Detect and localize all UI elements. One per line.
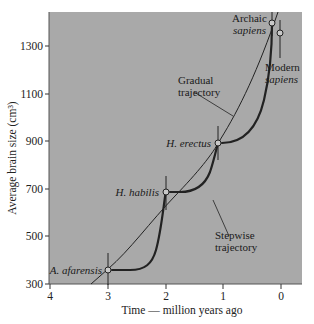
stepwise-label-line2: trajectory (215, 241, 258, 253)
x-ticks (50, 284, 281, 289)
y-tick-label: 700 (26, 183, 44, 195)
brain-size-chart: 300 500 700 900 1100 1300 4 3 2 1 0 Time… (0, 0, 314, 324)
habilis-label: H. habilis (115, 186, 159, 198)
archaic-label-line1: Archaic (232, 12, 267, 24)
y-tick-label: 500 (26, 230, 44, 242)
y-tick-label: 900 (26, 135, 44, 147)
y-axis-title: Average brain size (cm³) (6, 101, 19, 215)
x-tick-label: 3 (105, 290, 111, 302)
y-tick-label: 1300 (20, 40, 43, 52)
gradual-label-line1: Gradual (178, 74, 213, 86)
x-tick-label: 1 (220, 290, 226, 302)
gradual-label-line2: trajectory (178, 86, 221, 98)
y-tick-label: 1100 (20, 88, 43, 100)
x-tick-label: 4 (47, 290, 53, 302)
afarensis-label: A. afarensis (49, 264, 102, 276)
modern-label-line2: sapiens (265, 73, 298, 85)
stepwise-label-line1: Stepwise (215, 229, 255, 241)
y-tick-label: 300 (26, 278, 44, 290)
modern-label-line1: Modern (265, 61, 300, 73)
archaic-label-line2: sapiens (233, 24, 266, 36)
erectus-label: H. erectus (165, 137, 211, 149)
x-tick-label: 2 (163, 290, 169, 302)
y-ticks (45, 46, 49, 284)
x-axis-title: Time — million years ago (122, 304, 243, 317)
x-tick-label: 0 (278, 290, 284, 302)
